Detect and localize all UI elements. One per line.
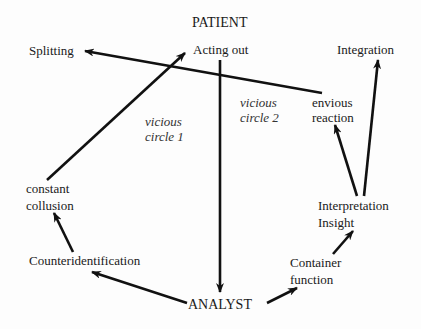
- node-analyst: ANALYST: [188, 297, 252, 312]
- node-collusion-line1: constant: [26, 180, 74, 197]
- edge-analyst-to-container: [267, 288, 297, 303]
- edge-interpretation-to-envious: [335, 125, 357, 196]
- node-interpretation-insight: Interpretation Insight: [318, 197, 389, 231]
- annotation-vicious-circle-2: vicious circle 2: [240, 95, 279, 125]
- edge-analyst-to-counteridentification: [92, 272, 187, 303]
- edge-container-to-interpretation: [333, 231, 353, 254]
- node-collusion-line2: collusion: [26, 197, 74, 214]
- annotation-vicious-circle-1: vicious circle 1: [145, 114, 184, 144]
- node-container-line1: Container: [290, 254, 341, 271]
- node-patient: PATIENT: [192, 15, 248, 30]
- vicious-circle-2-line2: circle 2: [240, 110, 279, 125]
- node-container-function: Container function: [290, 254, 341, 288]
- node-envious-line1: envious: [312, 95, 354, 110]
- node-constant-collusion: constant collusion: [26, 180, 74, 214]
- vicious-circle-1-line2: circle 1: [145, 129, 184, 144]
- node-container-line2: function: [290, 271, 341, 288]
- node-interpretation-line2: Insight: [318, 214, 389, 231]
- node-splitting: Splitting: [29, 43, 74, 58]
- node-integration: Integration: [337, 42, 394, 57]
- node-counteridentification: Counteridentification: [29, 253, 140, 268]
- node-envious-reaction: envious reaction: [312, 95, 354, 125]
- vicious-circle-1-line1: vicious: [145, 114, 184, 129]
- node-acting-out: Acting out: [193, 42, 248, 57]
- edge-envious-to-splitting: [85, 51, 322, 93]
- edge-counteridentification-to-collusion: [54, 213, 73, 252]
- node-interpretation-line1: Interpretation: [318, 197, 389, 214]
- node-envious-line2: reaction: [312, 110, 354, 125]
- edge-interpretation-to-integration: [364, 60, 378, 196]
- vicious-circle-2-line1: vicious: [240, 95, 279, 110]
